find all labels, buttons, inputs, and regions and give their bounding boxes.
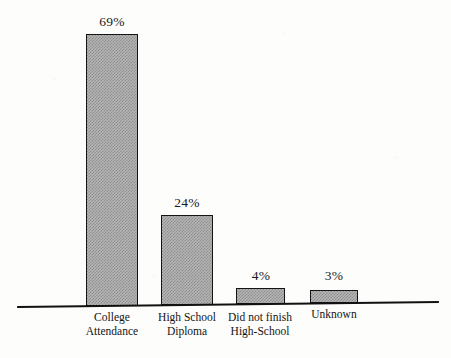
bar-value-label-2: 24% [141,195,233,211]
category-label-3-line2: High-School [200,325,320,339]
plot-area: 69% College Attendance 24% High School D… [0,0,451,358]
bar-college-attendance[interactable] [86,34,138,306]
category-label-4: Unknown [274,308,394,322]
x-axis-baseline [18,296,438,308]
bar-value-label-1: 69% [66,14,158,30]
bar-high-school-diploma[interactable] [161,215,213,305]
category-label-1-line1: College [94,311,130,323]
category-label-4-line1: Unknown [311,308,356,320]
bar-chart: 69% College Attendance 24% High School D… [0,0,451,358]
bar-value-label-4: 3% [288,268,380,284]
